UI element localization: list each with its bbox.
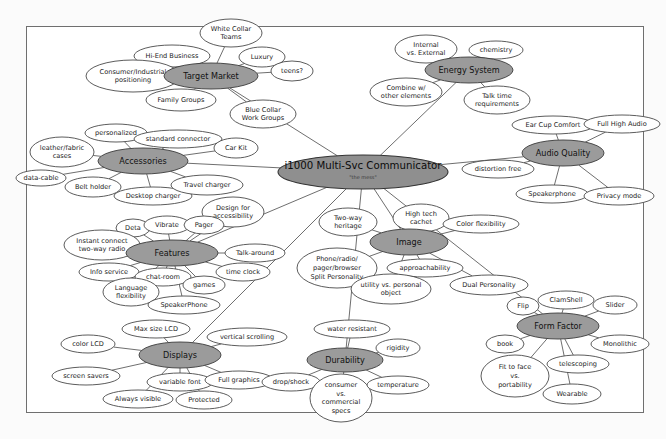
leaf-node-energy-system-chemistry-label: chemistry (480, 46, 513, 54)
edge-audio-quality-to-full-high-audio-1 (585, 132, 605, 142)
leaf-node-features-talk-around[interactable]: Talk-around (225, 244, 285, 262)
edge-features-to-info-service-6 (130, 262, 140, 265)
leaf-node-audio-quality-distortion-free[interactable]: distortion free (462, 160, 534, 178)
leaf-node-target-market-teens-label: teens? (281, 67, 303, 75)
leaf-node-image-approachability-label: approachability (399, 264, 450, 272)
leaf-node-form-factor-telescoping[interactable]: telescoping (547, 355, 609, 373)
leaf-node-image-color-flexibility[interactable]: Color flexibility (443, 215, 519, 233)
leaf-node-accessories-desktop-charger-label: Desktop charger (126, 192, 181, 200)
edge-image-to-phone-radio-pager-browser-split-personality-3 (369, 252, 382, 257)
edge-form-factor-to-slider-2 (585, 311, 599, 316)
leaf-node-audio-quality-speakerphone[interactable]: Speakerphone (516, 185, 588, 203)
leaf-node-target-market-luxury-label: Luxury (251, 53, 274, 61)
edge-accessories-to-leather-fabric-cases-3 (93, 155, 101, 156)
leaf-node-form-factor-clamshell[interactable]: ClamShell (538, 291, 594, 309)
branch-node-durability[interactable]: Durability (307, 348, 383, 372)
leaf-node-displays-color-lcd[interactable]: color LCD (61, 335, 115, 353)
leaf-node-target-market-family-groups[interactable]: Family Groups (146, 89, 216, 111)
leaf-node-audio-quality-full-high-audio-label: Full High Audio (597, 120, 646, 128)
leaf-node-energy-system-talk-time-requirements[interactable]: Talk timerequirements (464, 86, 530, 114)
leaf-node-form-factor-slider[interactable]: Slider (593, 296, 637, 314)
leaf-node-accessories-car-kit[interactable]: Car Kit (214, 138, 258, 158)
branch-node-accessories[interactable]: Accessories (98, 148, 188, 174)
leaf-node-accessories-standard-connector-label: standard connector (146, 135, 211, 143)
leaf-node-accessories-data-cable[interactable]: data-cable (16, 170, 66, 186)
leaf-node-energy-system-combine-w-other-elements[interactable]: Combine w/other elements (370, 78, 442, 106)
leaf-node-form-factor-book[interactable]: book (486, 335, 524, 353)
leaf-node-accessories-belt-holder-label: Belt holder (75, 183, 111, 191)
leaf-node-audio-quality-ear-cup-comfort-label: Ear Cup Comfort (526, 121, 581, 129)
leaf-node-image-high-tech-cachet[interactable]: High techcachet (393, 204, 449, 232)
edge-target-market-to-luxury-2 (239, 64, 245, 66)
leaf-node-features-vibrate[interactable]: Vibrate (144, 216, 190, 234)
leaf-node-features-speakerphone-label: SpeakerPhone (160, 301, 207, 309)
branch-node-form-factor[interactable]: Form Factor (517, 313, 599, 339)
edge-accessories-to-desktop-charger-6 (147, 174, 151, 187)
root-node-sublabel: "the mess" (349, 174, 377, 180)
leaf-node-form-factor-flip[interactable]: Flip (507, 297, 539, 315)
leaf-node-image-two-way-heritage[interactable]: Two-wayheritage (319, 208, 377, 236)
leaf-node-form-factor-wearable[interactable]: Wearable (543, 384, 601, 404)
leaf-node-features-games[interactable]: games (183, 276, 225, 294)
leaf-node-form-factor-book-label: book (497, 340, 513, 348)
branch-node-audio-quality[interactable]: Audio Quality (522, 140, 604, 166)
root-node[interactable]: i1000 Multi-Svc Communicator"the mess" (278, 155, 448, 189)
leaf-node-displays-protected-label: Protected (188, 396, 220, 404)
leaf-node-durability-drop-shock[interactable]: drop/shock (262, 373, 320, 391)
leaf-node-form-factor-fit-to-face-vs-portability[interactable]: Fit to facevs.portability (481, 355, 549, 397)
leaf-node-displays-variable-font-label: variable font (159, 378, 201, 386)
leaf-node-durability-temperature[interactable]: temperature (367, 376, 429, 394)
leaf-node-displays-protected[interactable]: Protected (176, 391, 232, 409)
leaf-node-displays-always-visible-label: Always visible (115, 395, 161, 403)
leaf-node-durability-consumer-vs-commercial-specs[interactable]: consumervs.commercialspecs (310, 374, 372, 422)
edge-displays-to-max-size-lcd-0 (164, 338, 168, 343)
leaf-node-durability-water-resistant-label: water resistant (327, 325, 377, 333)
leaf-node-accessories-standard-connector[interactable]: standard connector (134, 130, 222, 148)
leaf-node-target-market-white-collar-teams[interactable]: White CollarTeams (200, 19, 262, 47)
leaf-node-form-factor-monolithic[interactable]: Monolithic (591, 335, 649, 353)
leaf-node-target-market-blue-collar-work-groups[interactable]: Blue CollarWork Groups (230, 100, 296, 128)
leaf-node-displays-vertical-scrolling[interactable]: vertical scrolling (207, 328, 287, 346)
leaf-node-accessories-belt-holder[interactable]: Belt holder (65, 177, 121, 197)
branch-node-target-market[interactable]: Target Market (164, 63, 258, 89)
edge-durability-to-water-resistant-0 (348, 338, 350, 348)
leaf-node-features-chat-room-label: chat-room (146, 273, 180, 281)
nodes-layer: White CollarTeamsHi-End BusinessLuxuryte… (16, 19, 660, 422)
leaf-node-audio-quality-full-high-audio[interactable]: Full High Audio (584, 115, 660, 133)
branch-node-image[interactable]: Image (370, 229, 448, 255)
leaf-node-features-time-clock[interactable]: time clock (216, 263, 270, 281)
leaf-node-image-utility-vs-personal-object[interactable]: utility vs. personalobject (351, 274, 431, 304)
branch-node-displays[interactable]: Displays (139, 342, 221, 368)
leaf-node-audio-quality-privacy-mode[interactable]: Privacy mode (584, 187, 654, 205)
branch-node-energy-system[interactable]: Energy System (425, 57, 513, 83)
leaf-node-displays-max-size-lcd-label: Max size LCD (134, 325, 178, 333)
leaf-node-accessories-travel-charger[interactable]: Travel charger (171, 175, 243, 195)
leaf-node-features-speakerphone[interactable]: SpeakerPhone (148, 296, 220, 314)
edge-image-to-color-flexibility-2 (440, 231, 455, 235)
leaf-node-features-games-label: games (193, 281, 216, 289)
branch-node-features[interactable]: Features (126, 240, 218, 266)
leaf-node-displays-screen-savers[interactable]: screen savers (52, 367, 120, 385)
branch-node-form-factor-label: Form Factor (534, 321, 582, 331)
leaf-node-target-market-teens[interactable]: teens? (271, 61, 313, 81)
branch-node-features-label: Features (155, 248, 190, 258)
leaf-node-accessories-leather-fabric-cases[interactable]: leather/fabriccases (30, 137, 94, 167)
leaf-node-displays-variable-font[interactable]: variable font (147, 373, 213, 391)
leaf-node-durability-rigidity[interactable]: rigidity (376, 339, 420, 357)
leaf-node-displays-always-visible[interactable]: Always visible (103, 390, 173, 408)
leaf-node-energy-system-chemistry[interactable]: chemistry (469, 41, 523, 59)
edge-accessories-to-travel-charger-7 (170, 171, 185, 177)
leaf-node-target-market-blue-collar-work-groups-label: Blue CollarWork Groups (242, 105, 285, 122)
leaf-node-image-two-way-heritage-label: Two-wayheritage (333, 213, 362, 230)
leaf-node-durability-water-resistant[interactable]: water resistant (314, 320, 390, 338)
leaf-node-audio-quality-ear-cup-comfort[interactable]: Ear Cup Comfort (512, 116, 594, 134)
edge-accessories-to-car-kit-2 (184, 151, 215, 155)
leaf-node-features-pager[interactable]: Pager (184, 216, 224, 234)
leaf-node-displays-max-size-lcd[interactable]: Max size LCD (122, 320, 190, 338)
leaf-node-image-phone-radio-pager-browser-split-personality-label: Phone/radio/pager/browserSplit Personali… (310, 255, 363, 281)
leaf-node-image-dual-personality-label: Dual Personality (462, 281, 516, 289)
leaf-node-image-dual-personality[interactable]: Dual Personality (450, 275, 528, 295)
mindmap-svg: White CollarTeamsHi-End BusinessLuxuryte… (0, 0, 666, 439)
leaf-node-target-market-family-groups-label: Family Groups (158, 96, 205, 104)
edge-image-to-two-way-heritage-0 (372, 230, 381, 233)
